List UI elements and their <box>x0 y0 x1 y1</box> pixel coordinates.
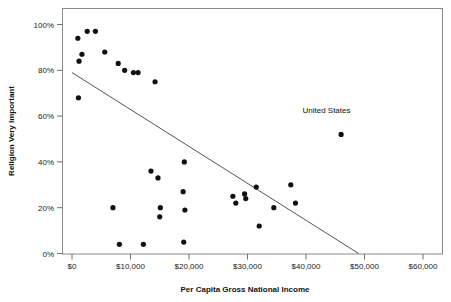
data-point <box>243 196 248 201</box>
y-tick-label: 100% <box>34 21 54 30</box>
x-tick-label: $60,000 <box>409 262 438 271</box>
y-axis-title: Religion Very Important <box>7 86 16 176</box>
data-point <box>75 36 80 41</box>
data-point <box>157 214 162 219</box>
y-tick-label: 40% <box>38 158 54 167</box>
data-point <box>152 79 157 84</box>
data-point <box>76 59 81 64</box>
data-point <box>116 61 121 66</box>
data-point <box>254 184 259 189</box>
data-point <box>148 168 153 173</box>
data-point <box>257 223 262 228</box>
data-point <box>117 242 122 247</box>
y-tick-label: 80% <box>38 66 54 75</box>
x-tick-label: $50,000 <box>350 262 379 271</box>
data-point <box>131 70 136 75</box>
data-point <box>122 68 127 73</box>
data-point <box>230 194 235 199</box>
data-point <box>288 182 293 187</box>
y-tick-label: 0% <box>42 250 54 259</box>
x-tick-label: $10,000 <box>116 262 145 271</box>
data-point <box>79 52 84 57</box>
data-point <box>93 29 98 34</box>
data-point <box>293 201 298 206</box>
data-point <box>141 242 146 247</box>
x-tick-label: $20,000 <box>175 262 204 271</box>
chart-background <box>0 0 451 302</box>
data-point <box>181 239 186 244</box>
data-point <box>110 205 115 210</box>
data-point <box>181 189 186 194</box>
chart-annotations: United States <box>302 106 350 115</box>
data-point <box>233 201 238 206</box>
x-tick-label: $0 <box>68 262 77 271</box>
annotation-label: United States <box>302 106 350 115</box>
data-point <box>102 49 107 54</box>
data-point <box>242 191 247 196</box>
data-point <box>155 175 160 180</box>
data-point <box>76 95 81 100</box>
chart-canvas: $0$10,000$20,000$30,000$40,000$50,000$60… <box>0 0 451 302</box>
data-point <box>136 70 141 75</box>
data-point <box>182 159 187 164</box>
y-tick-label: 20% <box>38 204 54 213</box>
scatter-chart: $0$10,000$20,000$30,000$40,000$50,000$60… <box>0 0 451 302</box>
x-tick-label: $40,000 <box>292 262 321 271</box>
data-point <box>85 29 90 34</box>
data-point <box>271 205 276 210</box>
x-tick-label: $30,000 <box>233 262 262 271</box>
data-point <box>339 132 344 137</box>
data-point <box>182 207 187 212</box>
y-tick-label: 60% <box>38 112 54 121</box>
data-point <box>158 205 163 210</box>
x-axis-title: Per Capita Gross National Income <box>181 285 310 294</box>
